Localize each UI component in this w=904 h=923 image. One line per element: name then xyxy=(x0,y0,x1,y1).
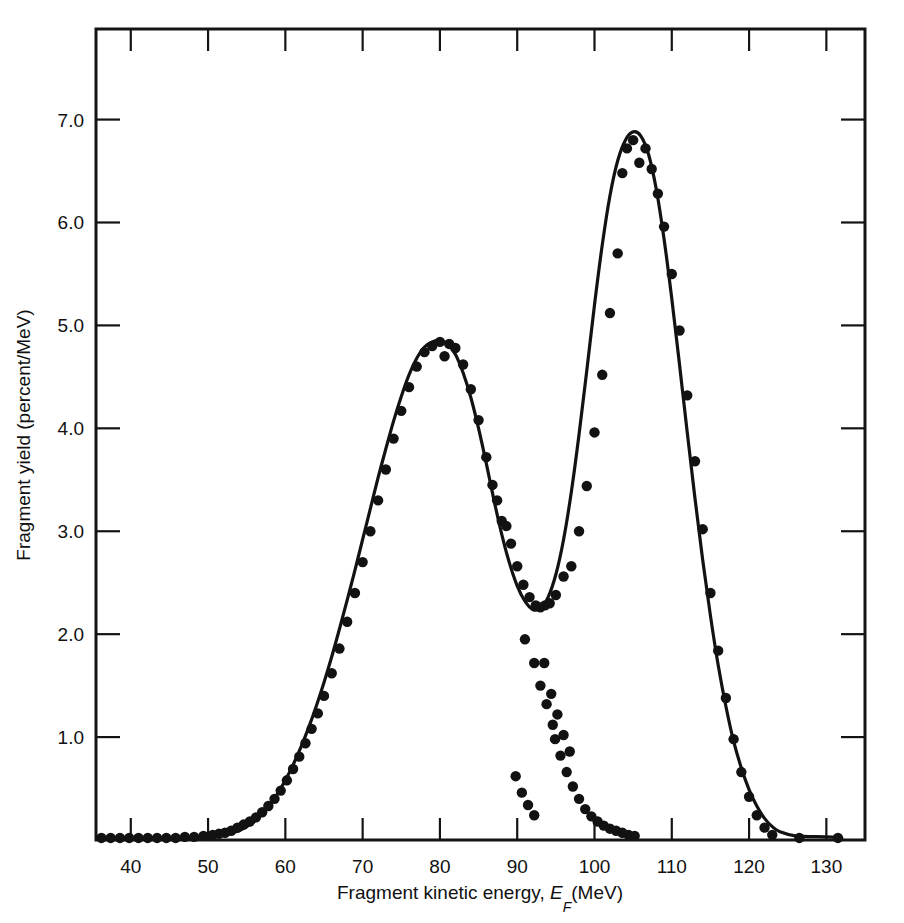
data-point-marker xyxy=(96,833,106,843)
data-point-marker xyxy=(458,359,468,369)
y-tick-label: 3.0 xyxy=(58,521,84,542)
data-point-marker xyxy=(105,833,115,843)
data-point-marker xyxy=(412,361,422,371)
data-point-marker xyxy=(682,390,692,400)
data-point-marker xyxy=(506,538,516,548)
data-point-marker xyxy=(189,832,199,842)
x-tick-label: 80 xyxy=(429,856,450,877)
data-point-marker xyxy=(667,269,677,279)
data-point-marker xyxy=(752,810,762,820)
data-point-marker xyxy=(589,427,599,437)
data-point-marker xyxy=(541,699,551,709)
data-point-marker xyxy=(294,751,304,761)
data-point-marker xyxy=(736,767,746,777)
data-point-marker xyxy=(552,709,562,719)
data-point-marker xyxy=(653,188,663,198)
data-point-marker xyxy=(539,658,549,668)
data-point-marker xyxy=(466,384,476,394)
data-point-marker xyxy=(646,164,656,174)
data-point-marker xyxy=(306,724,316,734)
data-point-marker xyxy=(548,720,558,730)
data-point-marker xyxy=(690,456,700,466)
data-point-marker xyxy=(518,580,528,590)
data-point-marker xyxy=(373,495,383,505)
fragment-yield-chart: 405060708090100110120130 1.02.03.04.05.0… xyxy=(0,0,904,923)
data-point-marker xyxy=(510,771,520,781)
data-point-marker xyxy=(492,495,502,505)
y-tick-label: 5.0 xyxy=(58,315,84,336)
data-point-marker xyxy=(634,158,644,168)
data-point-marker xyxy=(276,785,286,795)
x-tick-label: 60 xyxy=(275,856,296,877)
data-point-marker xyxy=(744,792,754,802)
data-point-marker xyxy=(404,382,414,392)
data-point-marker xyxy=(198,831,208,841)
data-point-marker xyxy=(544,598,554,608)
y-tick-label: 1.0 xyxy=(58,727,84,748)
data-point-marker xyxy=(728,734,738,744)
data-point-marker xyxy=(133,833,143,843)
data-point-marker xyxy=(439,351,449,361)
data-point-marker xyxy=(487,480,497,490)
data-point-marker xyxy=(501,521,511,531)
fitted-curve-layer xyxy=(100,132,842,838)
data-point-marker xyxy=(597,370,607,380)
data-point-marker xyxy=(481,452,491,462)
data-point-marker xyxy=(574,526,584,536)
x-axis-tick-labels: 405060708090100110120130 xyxy=(120,856,842,877)
y-tick-label: 7.0 xyxy=(58,110,84,131)
data-point-marker xyxy=(713,645,723,655)
fitted-curve xyxy=(100,132,842,838)
data-point-marker xyxy=(546,689,556,699)
data-point-marker xyxy=(269,794,279,804)
x-tick-label: 70 xyxy=(352,856,373,877)
data-point-marker xyxy=(574,794,584,804)
data-point-marker xyxy=(396,406,406,416)
data-point-marker xyxy=(350,588,360,598)
data-point-marker xyxy=(450,343,460,353)
data-point-marker xyxy=(342,617,352,627)
data-point-marker xyxy=(628,135,638,145)
x-tick-label: 90 xyxy=(507,856,528,877)
y-axis-tick-labels: 1.02.03.04.05.06.07.0 xyxy=(58,110,84,749)
data-point-marker xyxy=(381,464,391,474)
x-tick-label: 120 xyxy=(733,856,765,877)
data-point-marker xyxy=(698,524,708,534)
data-point-marker xyxy=(512,561,522,571)
data-point-marker xyxy=(282,775,292,785)
data-point-marker xyxy=(558,730,568,740)
data-point-marker xyxy=(357,557,367,567)
data-point-marker xyxy=(327,668,337,678)
x-tick-label: 130 xyxy=(811,856,843,877)
data-point-marker xyxy=(517,787,527,797)
data-point-marker xyxy=(566,561,576,571)
data-point-marker xyxy=(115,833,125,843)
data-point-marker xyxy=(520,634,530,644)
data-point-marker xyxy=(170,833,180,843)
data-point-marker xyxy=(365,526,375,536)
data-point-marker xyxy=(565,746,575,756)
data-point-marker xyxy=(659,221,669,231)
data-point-marker xyxy=(833,833,843,843)
data-point-marker xyxy=(759,822,769,832)
data-point-marker xyxy=(313,708,323,718)
data-point-marker xyxy=(605,308,615,318)
data-point-marker xyxy=(288,764,298,774)
data-point-marker xyxy=(161,833,171,843)
data-point-marker xyxy=(674,325,684,335)
data-point-marker xyxy=(300,738,310,748)
data-point-marker xyxy=(558,571,568,581)
data-point-marker xyxy=(152,833,162,843)
data-point-marker xyxy=(529,810,539,820)
data-point-marker xyxy=(143,833,153,843)
figure-container: 405060708090100110120130 1.02.03.04.05.0… xyxy=(0,0,904,923)
data-point-marker xyxy=(767,830,777,840)
data-point-marker xyxy=(622,143,632,153)
x-tick-label: 50 xyxy=(197,856,218,877)
y-tick-label: 2.0 xyxy=(58,624,84,645)
data-point-marker xyxy=(334,643,344,653)
data-point-marker xyxy=(551,590,561,600)
x-tick-label: 100 xyxy=(579,856,611,877)
data-point-marker xyxy=(435,337,445,347)
y-tick-label: 6.0 xyxy=(58,212,84,233)
